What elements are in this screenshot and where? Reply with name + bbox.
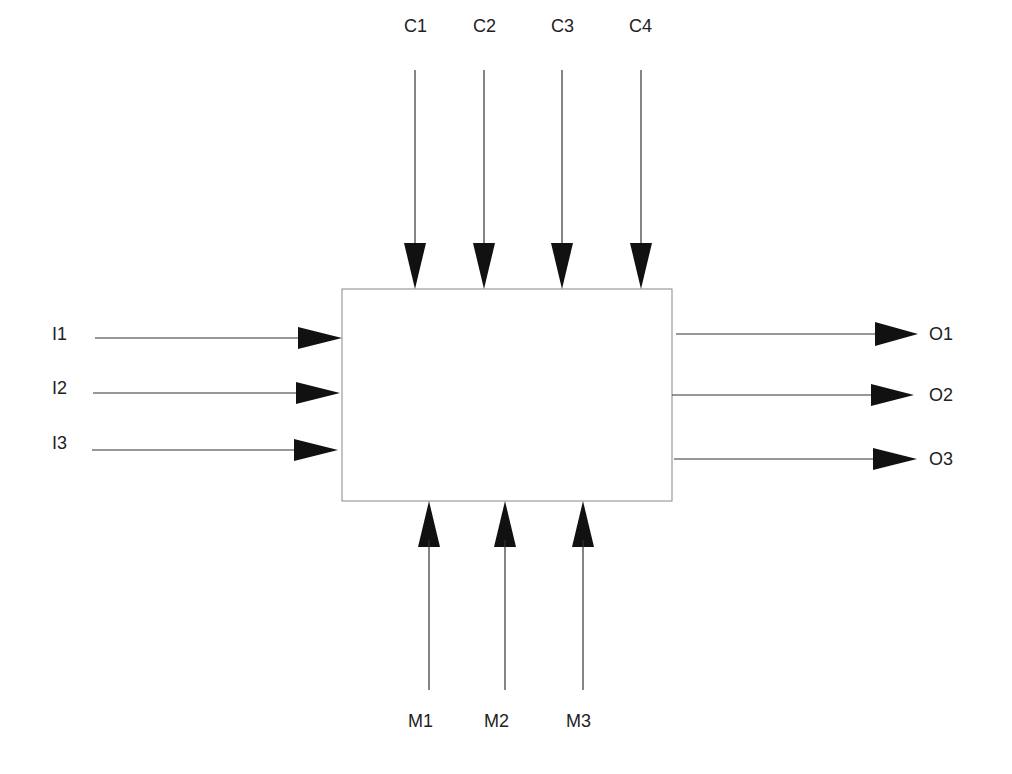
arrowhead-down-icon (404, 243, 426, 289)
control-arrow-c4: C4 (629, 16, 652, 289)
arrowhead-right-icon (875, 322, 918, 346)
arrowhead-down-icon (473, 243, 495, 289)
arrowhead-right-icon (296, 382, 340, 404)
mechanism-label: M1 (408, 711, 433, 731)
control-label: C1 (404, 16, 427, 36)
input-arrow-i2: I2 (52, 378, 340, 404)
input-label: I2 (52, 378, 67, 398)
control-label: C4 (629, 16, 652, 36)
input-label: I1 (52, 324, 67, 344)
mechanism-arrow-m3: M3 (566, 501, 594, 731)
output-label: O2 (929, 385, 953, 405)
control-arrow-c1: C1 (404, 16, 427, 289)
input-label: I3 (52, 433, 67, 453)
control-arrow-c2: C2 (473, 16, 496, 289)
idef0-diagram: C1 C2 C3 C4 I1 I2 I3 O1 (0, 0, 1012, 774)
control-arrow-c3: C3 (551, 16, 574, 289)
arrowhead-right-icon (871, 384, 914, 406)
arrowhead-down-icon (630, 243, 652, 289)
activity-box (342, 289, 672, 501)
output-arrow-o3: O3 (674, 448, 953, 470)
control-label: C3 (551, 16, 574, 36)
mechanism-label: M3 (566, 711, 591, 731)
output-label: O3 (929, 449, 953, 469)
output-arrow-o1: O1 (676, 322, 953, 346)
input-arrow-i3: I3 (52, 433, 338, 461)
mechanism-arrow-m1: M1 (408, 501, 440, 731)
arrowhead-right-icon (298, 327, 342, 349)
control-label: C2 (473, 16, 496, 36)
input-arrow-i1: I1 (52, 324, 342, 349)
arrowhead-right-icon (873, 448, 917, 470)
mechanism-label: M2 (484, 711, 509, 731)
mechanism-arrow-m2: M2 (484, 501, 516, 731)
output-arrow-o2: O2 (672, 384, 953, 406)
arrowhead-down-icon (551, 243, 573, 289)
output-label: O1 (929, 324, 953, 344)
arrowhead-right-icon (294, 439, 338, 461)
